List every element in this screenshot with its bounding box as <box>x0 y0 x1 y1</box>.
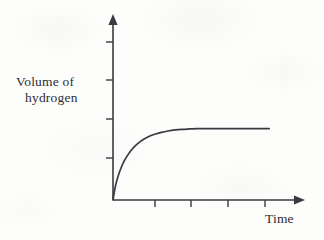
y-axis-title-line2: hydrogen <box>16 90 78 106</box>
x-axis-title: Time <box>265 211 294 227</box>
y-axis-title-line1: Volume of <box>16 74 74 89</box>
y-axis-title: Volume of hydrogen <box>16 74 78 105</box>
hydrogen-volume-curve <box>113 129 269 200</box>
x-axis-arrowhead <box>294 195 305 204</box>
x-axis-ticks <box>155 200 265 207</box>
graph-figure: Volume of hydrogen Time <box>0 0 324 240</box>
y-axis-arrowhead <box>108 14 117 25</box>
plot-area <box>0 0 324 240</box>
y-axis-ticks <box>106 42 113 158</box>
